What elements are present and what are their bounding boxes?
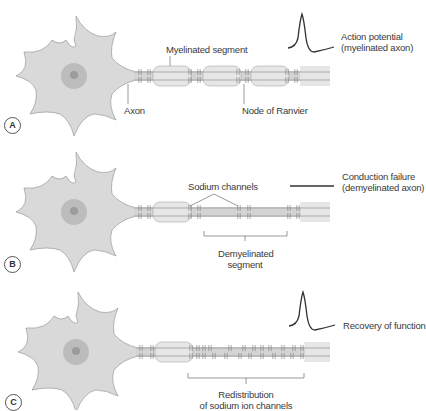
label-myelinated-segment: Myelinated segment	[166, 44, 247, 55]
myelin-end	[300, 202, 330, 222]
panel-letter-c: C	[5, 394, 22, 411]
label-conduction-failure: Conduction failure	[342, 171, 415, 182]
panel-letter-b: B	[4, 256, 21, 273]
label-axon: Axon	[124, 105, 145, 116]
panel-b	[16, 152, 334, 272]
label-redistribution-sub: of sodium ion channels	[196, 400, 296, 411]
action-potential-trace-c	[289, 292, 335, 330]
label-redistribution: Redistribution	[206, 389, 286, 400]
label-demyelinated: Demyelinated	[218, 248, 272, 259]
panel-c	[18, 292, 335, 410]
panel-letter-a: A	[4, 117, 21, 134]
myelin-end	[304, 342, 330, 362]
panel-a	[16, 14, 334, 136]
label-action-potential: Action potential	[341, 31, 403, 42]
myelin-end	[300, 66, 330, 86]
label-conduction-failure-sub: (demyelinated axon)	[342, 182, 424, 193]
label-node-of-ranvier: Node of Ranvier	[242, 105, 308, 116]
action-potential-trace-a	[288, 14, 334, 52]
label-sodium-channels: Sodium channels	[188, 181, 258, 192]
label-demyelinated-segment: segment	[218, 259, 272, 270]
label-recovery-of-function: Recovery of function	[343, 320, 426, 331]
label-action-potential-sub: (myelinated axon)	[341, 42, 413, 53]
